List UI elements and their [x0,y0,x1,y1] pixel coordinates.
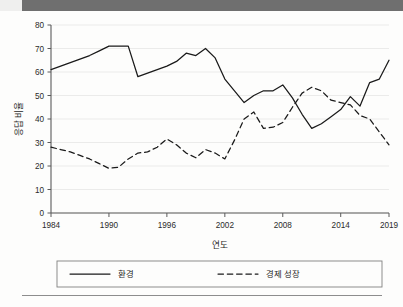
x-tick-label-1984: 1984 [42,221,61,230]
legend-label-economic-growth: 경제 성장 [266,269,300,279]
y-axis-ticks: 01020304050607080 [35,21,51,218]
series-line-environment [51,46,389,128]
x-tick-label-2014: 2014 [332,221,351,230]
x-tick-label-2002: 2002 [216,221,235,230]
y-axis-label: 응답 비율 [13,102,24,136]
line-chart: 01020304050607080 1984199019962002200820… [0,11,403,295]
legend-label-environment: 환경 [118,269,134,279]
y-tick-label-60: 60 [35,68,45,77]
y-tick-label-40: 40 [35,115,45,124]
x-tick-label-1990: 1990 [100,221,119,230]
x-tick-label-1996: 1996 [158,221,177,230]
chart-figure: 01020304050607080 1984199019962002200820… [0,11,403,295]
y-tick-label-50: 50 [35,92,45,101]
scan-edge-fade [0,0,22,11]
scan-bar-top [22,0,403,11]
x-axis-label: 연도 [212,240,228,250]
y-tick-label-80: 80 [35,21,45,30]
chart-series [51,46,389,168]
y-tick-label-10: 10 [35,186,45,195]
x-tick-label-2008: 2008 [274,221,293,230]
page-root: 01020304050607080 1984199019962002200820… [0,0,403,307]
x-axis-ticks: 1984199019962002200820142019 [42,213,399,230]
chart-gridlines [51,25,389,213]
y-tick-label-70: 70 [35,45,45,54]
y-tick-label-30: 30 [35,139,45,148]
x-tick-label-2019: 2019 [380,221,399,230]
chart-legend: 환경 경제 성장 [57,261,382,287]
y-tick-label-0: 0 [39,209,44,218]
series-line-economic-growth [51,87,389,168]
y-tick-label-20: 20 [35,162,45,171]
scan-bar-bottom [22,295,382,296]
